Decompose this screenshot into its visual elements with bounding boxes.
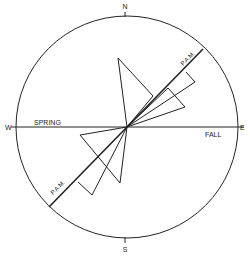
east-label: E	[240, 124, 245, 131]
west-label: W	[5, 124, 12, 131]
lower-triangle	[80, 127, 127, 183]
fall-label: FALL	[205, 131, 221, 138]
upper-triangle	[118, 58, 153, 127]
south-label: S	[123, 246, 128, 253]
migration-direction-diagram: N S W E SPRING FALL P.A.M. P.A.M.	[0, 0, 250, 260]
lower-ray-triangle	[78, 127, 127, 195]
pam-lower-label: P.A.M.	[49, 179, 66, 196]
upper-ray-triangle-2	[127, 72, 195, 127]
north-label: N	[122, 3, 127, 10]
spring-label: SPRING	[34, 119, 61, 126]
